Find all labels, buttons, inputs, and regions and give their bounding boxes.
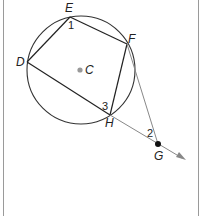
segment-fh	[110, 44, 127, 115]
center-point-c	[77, 67, 82, 72]
segment-fg	[127, 44, 158, 144]
point-g	[155, 141, 161, 147]
angle-label-1: 1	[68, 20, 74, 31]
label-e: E	[65, 2, 73, 14]
angle-label-3: 3	[102, 101, 108, 112]
segment-de	[27, 17, 70, 62]
label-d: D	[16, 56, 25, 68]
arrowhead-icon	[176, 152, 186, 160]
segment-dh	[27, 62, 110, 115]
label-f: F	[128, 33, 135, 45]
label-c: C	[85, 64, 94, 76]
label-g: G	[154, 150, 163, 162]
geometry-diagram	[0, 0, 202, 216]
label-h: H	[105, 117, 114, 129]
angle-label-2: 2	[147, 128, 153, 139]
ray-hg	[110, 115, 182, 158]
